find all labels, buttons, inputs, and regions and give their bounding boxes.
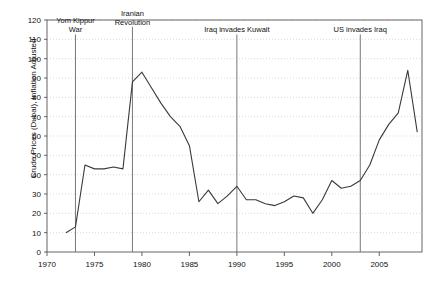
y-axis-label: Crude Prices (Dubai), Inflation Adjusted [29, 14, 38, 204]
x-tick-label: 2000 [323, 260, 341, 269]
annotation-label: Iranian Revolution [86, 9, 178, 27]
x-tick-label: 2005 [370, 260, 388, 269]
data-series-line [66, 70, 417, 232]
plot-area: 0102030405060708090100110120197019751980… [0, 0, 433, 282]
annotation-label: Iraq invades Kuwait [191, 25, 283, 34]
x-tick-label: 1980 [133, 260, 151, 269]
y-tick-label: 10 [32, 229, 41, 238]
x-tick-label: 1975 [86, 260, 104, 269]
chart-figure: 0102030405060708090100110120197019751980… [0, 0, 433, 282]
x-tick-label: 1985 [181, 260, 199, 269]
x-tick-label: 1970 [38, 260, 56, 269]
y-tick-label: 20 [32, 209, 41, 218]
x-tick-label: 1990 [228, 260, 246, 269]
y-tick-label: 0 [37, 248, 42, 257]
chart-svg: 0102030405060708090100110120197019751980… [0, 0, 433, 282]
annotation-label: US invades Iraq [314, 25, 406, 34]
x-tick-label: 1995 [275, 260, 293, 269]
